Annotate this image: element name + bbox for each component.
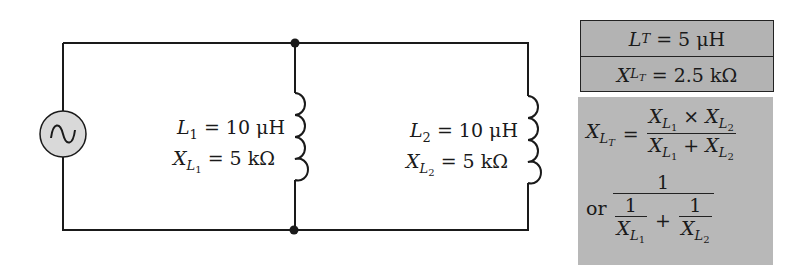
l1-reactance-label: XL1 = 5 kΩ — [150, 147, 275, 175]
total-reactance: XLT = 2.5 kΩ — [581, 56, 773, 92]
l1-inductance-label: L1 = 10 μH — [160, 116, 285, 142]
l2-inductance-label: L2 = 10 μH — [393, 119, 518, 145]
reciprocal-formula: or 1 1XL1 + 1XL2 — [586, 171, 714, 245]
product-over-sum-formula: XLT = XL1 × XL2 XL1 + XL2 — [586, 105, 736, 162]
total-inductance: LT = 5 μH — [581, 21, 773, 56]
summary-box: LT = 5 μH XLT = 2.5 kΩ — [580, 20, 774, 92]
inductor-l1-icon — [295, 93, 308, 181]
l2-reactance-label: XL2 = 5 kΩ — [383, 150, 508, 178]
formula-box: XLT = XL1 × XL2 XL1 + XL2 or 1 1XL1 + 1X… — [578, 97, 773, 265]
node-bottom — [290, 226, 299, 235]
node-top — [291, 39, 300, 48]
inductor-l2-icon — [528, 96, 541, 184]
